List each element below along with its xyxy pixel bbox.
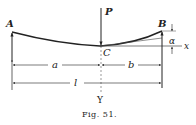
label-p-load: P bbox=[104, 6, 113, 17]
beam-diagram: A B C P x α a b l Y Fig. 51. bbox=[0, 0, 196, 125]
label-x-axis: x bbox=[184, 41, 189, 51]
label-b-point: B bbox=[157, 18, 166, 29]
label-c-point: C bbox=[103, 47, 111, 58]
figure-caption: Fig. 51. bbox=[82, 110, 117, 119]
label-y-axis: Y bbox=[96, 95, 104, 105]
label-dim-b: b bbox=[128, 59, 134, 70]
label-dim-l: l bbox=[74, 77, 77, 88]
deflected-beam-curve bbox=[12, 31, 162, 46]
label-a-point: A bbox=[5, 18, 14, 29]
label-dim-a: a bbox=[52, 59, 58, 70]
chord-line bbox=[100, 38, 162, 46]
label-alpha: α bbox=[169, 36, 175, 46]
